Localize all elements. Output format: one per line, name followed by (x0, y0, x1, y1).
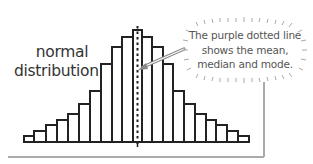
bar (163, 64, 173, 142)
bar (142, 37, 152, 142)
label-line-1: normal (18, 43, 98, 62)
bar (90, 91, 101, 142)
bar (24, 136, 34, 142)
bar (173, 91, 184, 142)
bar (184, 104, 195, 142)
histogram-diagram (0, 0, 313, 164)
bar (122, 37, 133, 142)
chart-label: normal distribution (18, 43, 98, 81)
bar (68, 114, 79, 142)
bar (34, 131, 46, 142)
bar (195, 114, 206, 142)
callout-line-3: median and mode. (186, 57, 304, 72)
bar (238, 136, 249, 142)
bar (46, 125, 57, 142)
callout-text: The purple dotted line shows the mean, m… (186, 28, 304, 72)
callout-line-2: shows the mean, (186, 43, 304, 58)
bar (112, 47, 122, 142)
bar (206, 120, 216, 142)
bar (79, 104, 90, 142)
label-line-2: distribution (14, 62, 98, 81)
bar (57, 120, 68, 142)
bar (227, 131, 238, 142)
bar (216, 125, 227, 142)
callout-line-1: The purple dotted line (186, 28, 304, 43)
bar (101, 64, 112, 142)
